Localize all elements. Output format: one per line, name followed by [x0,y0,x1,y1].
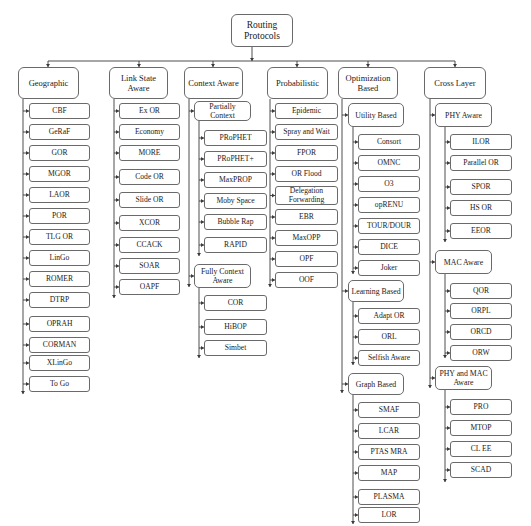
protocol-oof-label: OOF [299,276,314,285]
protocol-orpl-label: ORPL [471,307,490,316]
protocol-prophet: PRoPHET [204,130,267,146]
protocol-ilor-label: ILOR [472,138,490,147]
protocol-map-label: MAP [381,469,397,478]
protocol-selfish-aware: Selfish Aware [358,350,420,366]
protocol-hibop: HiBOP [204,319,267,335]
protocol-prophet-label: PRoPHET [219,134,251,143]
protocol-orcd: ORCD [450,324,512,340]
protocol-geraf: GeRaF [29,124,90,140]
protocol-por: POR [29,208,90,224]
protocol-ex-or: Ex OR [119,103,180,119]
subgroup-learning-based: Learning Based [348,280,404,302]
protocol-o3-label: O3 [384,180,393,189]
protocol-slide-or: Slide OR [119,192,180,208]
protocol-laor: LAOR [29,187,90,203]
protocol-opf-label: OPF [300,255,314,264]
subgroup-partially-context-label: Partially Context [197,102,248,120]
category-cross-layer: Cross Layer [424,67,486,99]
protocol-simbet-label: Simbet [225,344,247,353]
protocol-code-or: Code OR [119,169,180,185]
protocol-lor: LOR [358,507,420,523]
protocol-mgor: MGOR [29,166,90,182]
protocol-hs-or-label: HS OR [470,204,492,213]
protocol-gor-label: GOR [51,149,67,158]
protocol-spray-and-wait: Spray and Wait [275,124,338,140]
category-geographic: Geographic [18,67,79,99]
protocol-ebr: EBR [275,209,338,225]
protocol-delegation-forwarding: Delegation Forwarding [275,186,338,205]
root-node-label: Routing Protocols [244,20,280,42]
protocol-maxprop: MaxPROP [204,172,267,188]
protocol-lcar-label: LCAR [379,427,399,436]
protocol-oprah-label: OPRAH [47,320,73,329]
protocol-romer-label: ROMER [46,275,73,284]
protocol-plasma-label: PLASMA [374,493,405,502]
protocol-bubble-rap: Bubble Rap [204,214,267,230]
protocol-gor: GOR [29,145,90,161]
subgroup-phy-aware: PHY Aware [435,103,492,127]
protocol-xlingo-label: XLinGo [47,359,72,368]
protocol-fpor-label: FPOR [297,149,316,158]
protocol-geraf-label: GeRaF [49,128,71,137]
protocol-xlingo: XLinGo [29,355,90,371]
protocol-tour-dour: TOUR/DOUR [358,218,420,234]
protocol-fpor: FPOR [275,145,338,161]
protocol-scad-label: SCAD [471,466,491,475]
protocol-joker-label: Joker [381,264,397,273]
protocol-bubble-rap-label: Bubble Rap [217,218,253,227]
protocol-spor-label: SPOR [472,183,491,192]
protocol-ccack-label: CCACK [136,241,162,250]
protocol-more-label: MORE [139,149,161,158]
protocol-smaf-label: SMAF [379,406,400,415]
protocol-moby-space-label: Moby Space [216,197,254,206]
subgroup-partially-context: Partially Context [194,101,251,121]
protocol-joker: Joker [358,260,420,276]
protocol-map: MAP [358,465,420,481]
protocol-simbet: Simbet [204,340,267,356]
protocol-cbf: CBF [29,103,90,119]
protocol-or-flood: OR Flood [275,166,338,182]
category-optimization-based: Optimization Based [338,67,398,99]
protocol-tlg-or-label: TLG OR [46,233,73,242]
category-context-aware-label: Context Aware [188,78,238,88]
protocol-scad: SCAD [450,462,512,478]
protocol-more: MORE [119,145,180,161]
protocol-corman-label: CORMAN [43,341,76,350]
category-optimization-based-label: Optimization Based [346,73,391,93]
protocol-epidemic: Epidemic [275,103,338,119]
protocol-maxprop-label: MaxPROP [219,176,252,185]
protocol-oprenu-label: opRENU [375,201,403,210]
protocol-smaf: SMAF [358,402,420,418]
category-link-state-aware-label: Link State Aware [112,73,165,93]
protocol-omnc-label: OMNC [378,159,401,168]
protocol-dice-label: DICE [380,243,398,252]
protocol-rapid-label: RAPID [224,241,247,250]
subgroup-fully-context-aware: Fully Context Aware [194,264,251,288]
protocol-cbf-label: CBF [52,107,66,116]
subgroup-learning-based-label: Learning Based [351,287,400,296]
category-geographic-label: Geographic [29,78,69,88]
subgroup-graph-based: Graph Based [348,373,404,395]
protocol-xcor-label: XCOR [139,219,160,228]
protocol-orcd-label: ORCD [470,328,491,337]
protocol-cl-ee-label: CL EE [471,445,492,454]
protocol-laor-label: LAOR [49,191,70,200]
protocol-spor: SPOR [450,179,512,195]
protocol-spray-and-wait-label: Spray and Wait [283,128,330,137]
category-context-aware: Context Aware [184,67,243,99]
protocol-por-label: POR [52,212,67,221]
category-link-state-aware: Link State Aware [109,67,168,99]
protocol-qor: QOR [450,283,512,299]
subgroup-utility-based: Utility Based [348,103,404,127]
protocol-mgor-label: MGOR [48,170,71,179]
protocol-dice: DICE [358,239,420,255]
protocol-lor-label: LOR [381,511,396,520]
root-node-routing-protocols: Routing Protocols [231,14,293,47]
protocol-ex-or-label: Ex OR [139,107,160,116]
protocol-xcor: XCOR [119,215,180,231]
protocol-code-or-label: Code OR [135,173,163,182]
protocol-dtrp-label: DTRP [50,296,69,305]
protocol-ptas-mra: PTAS MRA [358,444,420,460]
protocol-consort-label: Consort [377,138,401,147]
protocol-parallel-or-label: Parallel OR [463,159,499,168]
